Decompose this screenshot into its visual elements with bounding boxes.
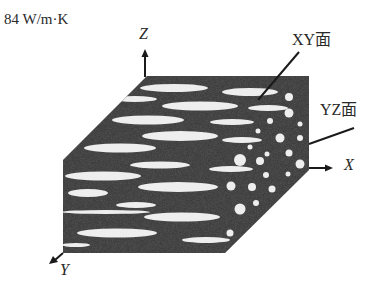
z-axis-label: Z (139, 26, 148, 42)
thermal-conductivity-label: 84 W/m·K (4, 12, 68, 27)
yz-face-leader-line (309, 128, 354, 144)
x-axis-arrow (309, 165, 333, 172)
yz-face-label: YZ面 (320, 102, 357, 118)
xy-face-label: XY面 (292, 32, 331, 48)
x-axis-label: X (344, 157, 354, 173)
composite-block-diagram: 84 W/m·K Z X Y XY面 YZ面 (0, 0, 384, 292)
z-axis-arrow (142, 49, 149, 77)
y-axis-label: Y (60, 262, 69, 278)
